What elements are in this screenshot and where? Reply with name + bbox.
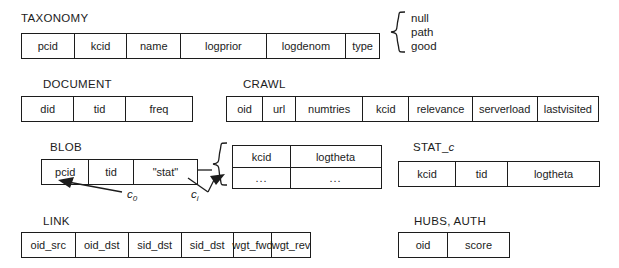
crawl-column-oid: oid: [227, 97, 263, 121]
document-caption: DOCUMENT: [43, 78, 112, 91]
taxonomy-type-domain-null: null: [411, 12, 429, 26]
blob-expansion-cell-kcid-value: ...: [233, 168, 291, 188]
blob-column-tid: tid: [89, 160, 133, 184]
link-column-sid-dst-1: sid_dst: [129, 233, 182, 257]
blob-ci-arrow-line-right: [208, 180, 214, 192]
crawl-caption: CRAWL: [243, 78, 286, 91]
blob-expansion-cell-logtheta-value: ...: [291, 168, 380, 188]
link-column-sid-dst-2: sid_dst: [182, 233, 235, 257]
blob-edge-label-ci: ci: [191, 188, 199, 203]
blob-edge-label-c0: c0: [127, 188, 137, 203]
hubs-auth-table: oid score: [398, 232, 510, 258]
taxonomy-type-brace: [391, 12, 405, 52]
blob-caption: BLOB: [50, 141, 82, 154]
stat-c-column-kcid: kcid: [399, 162, 456, 186]
link-column-wgt-fwd: wgt_fwd: [234, 233, 272, 257]
stat-c-table: kcid tid logtheta: [398, 161, 600, 187]
link-column-oid-src: oid_src: [22, 233, 76, 257]
crawl-column-kcid: kcid: [363, 97, 409, 121]
blob-expansion-column-logtheta: logtheta: [291, 146, 380, 167]
document-table: did tid freq: [21, 96, 193, 122]
taxonomy-column-name: name: [127, 34, 181, 58]
schema-figure: TAXONOMY pcid kcid name logprior logdeno…: [0, 0, 619, 268]
taxonomy-type-domain-path: path: [411, 26, 433, 40]
crawl-column-lastvisited: lastvisited: [538, 97, 598, 121]
crawl-column-numtries: numtries: [296, 97, 363, 121]
taxonomy-column-logprior: logprior: [181, 34, 267, 58]
blob-table: pcid tid "stat": [41, 159, 198, 185]
document-column-tid: tid: [74, 97, 125, 121]
link-caption: LINK: [43, 215, 70, 228]
blob-column-pcid: pcid: [42, 160, 89, 184]
blob-ci-arrow-head: [210, 174, 225, 185]
hubs-auth-caption: HUBS, AUTH: [414, 215, 486, 228]
taxonomy-caption: TAXONOMY: [21, 12, 88, 25]
stat-c-caption: STAT_c: [413, 141, 455, 154]
blob-column-stat: "stat": [134, 160, 197, 184]
taxonomy-column-type: type: [346, 34, 379, 58]
stat-c-column-tid: tid: [456, 162, 508, 186]
document-column-did: did: [22, 97, 74, 121]
crawl-column-serverload: serverload: [473, 97, 538, 121]
taxonomy-column-logdenom: logdenom: [267, 34, 347, 58]
link-column-wgt-rev: wgt_rev: [272, 233, 310, 257]
crawl-column-relevance: relevance: [409, 97, 472, 121]
taxonomy-column-pcid: pcid: [22, 34, 75, 58]
link-table: oid_src oid_dst sid_dst sid_dst wgt_fwd …: [21, 232, 311, 258]
blob-expansion-header-row: kcid logtheta: [233, 146, 381, 168]
hubs-auth-column-oid: oid: [399, 233, 448, 257]
crawl-column-url: url: [263, 97, 296, 121]
blob-expansion-brace: [213, 143, 227, 185]
blob-expansion-data-row: ... ...: [233, 168, 381, 188]
taxonomy-type-domain-good: good: [411, 40, 437, 54]
blob-expansion-column-kcid: kcid: [233, 146, 291, 167]
link-column-oid-dst: oid_dst: [76, 233, 130, 257]
document-column-freq: freq: [126, 97, 192, 121]
hubs-auth-column-score: score: [448, 233, 509, 257]
blob-expansion-table: kcid logtheta ... ...: [232, 145, 382, 189]
stat-c-column-logtheta: logtheta: [508, 162, 599, 186]
taxonomy-table: pcid kcid name logprior logdenom type: [21, 33, 380, 59]
taxonomy-column-kcid: kcid: [75, 34, 128, 58]
crawl-table: oid url numtries kcid relevance serverlo…: [226, 96, 599, 122]
